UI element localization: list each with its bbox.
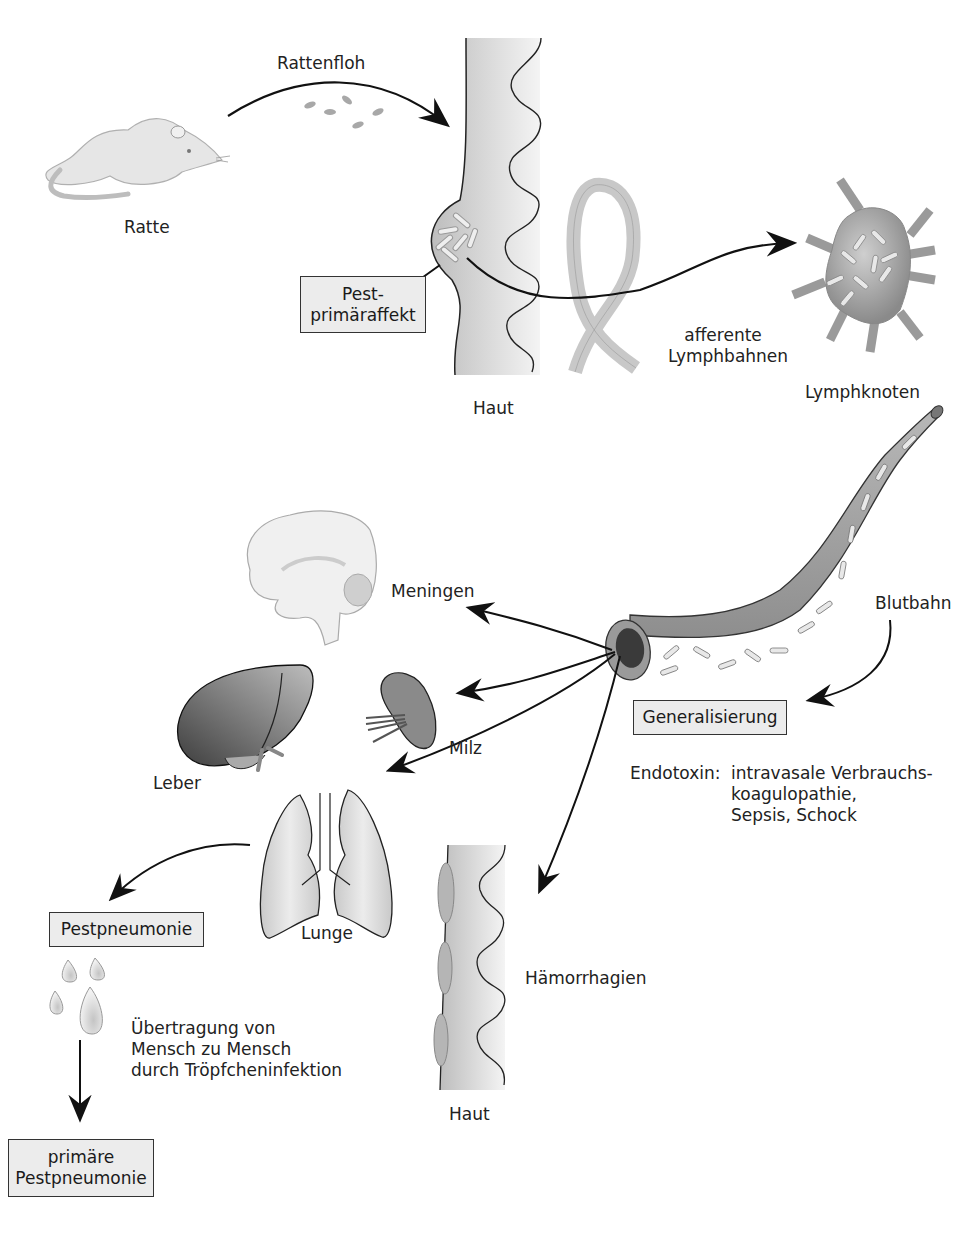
rat-icon — [46, 119, 230, 198]
label-lung: Lunge — [301, 923, 353, 944]
transmission-line2: Mensch zu Mensch — [131, 1039, 342, 1060]
label-lymph-vessels: afferente Lymphbahnen — [668, 325, 778, 367]
endotoxin-line3: Sepsis, Schock — [731, 805, 933, 826]
label-lymph-vessels-line1: afferente — [668, 325, 778, 346]
liver-icon — [178, 665, 313, 770]
label-hemorrhages: Hämorrhagien — [525, 968, 646, 989]
primary-affect-line1: Pest- — [342, 284, 384, 305]
blood-vessel-icon — [601, 403, 945, 683]
box-generalization: Generalisierung — [633, 700, 787, 735]
label-lymph-vessels-line2: Lymphbahnen — [668, 346, 778, 367]
primary-affect-line2: primäraffekt — [310, 305, 416, 326]
label-meninges: Meningen — [391, 581, 474, 602]
endotoxin-line2: koagulopathie, — [731, 784, 933, 805]
primary-pneumonia-line2: Pestpneumonie — [15, 1168, 146, 1189]
lymph-vessel-icon — [573, 185, 636, 372]
lymph-node-icon — [793, 180, 935, 352]
brain-icon — [247, 511, 376, 645]
primary-pneumonia-line1: primäre — [48, 1147, 115, 1168]
box-plague-pneumonia: Pestpneumonie — [49, 912, 204, 947]
box-primary-affect: Pest- primäraffekt — [300, 276, 426, 333]
pneumonia-arrow — [112, 844, 250, 898]
label-skin-bottom: Haut — [449, 1104, 490, 1125]
label-flea: Rattenfloh — [277, 53, 365, 74]
spleen-icon — [366, 673, 436, 749]
transmission-line3: durch Tröpfcheninfektion — [131, 1060, 342, 1081]
label-skin-top: Haut — [473, 398, 514, 419]
box-primary-pneumonia: primäre Pestpneumonie — [8, 1139, 154, 1197]
flea-icon — [303, 94, 384, 130]
endotoxin-line1: intravasale Verbrauchs- — [731, 763, 933, 784]
skin-hemorrhage-icon — [434, 845, 505, 1090]
flea-transfer-arrow — [228, 82, 446, 124]
generalization-arrow — [810, 620, 890, 700]
lung-icon — [260, 790, 392, 938]
label-spleen: Milz — [449, 738, 482, 759]
droplet-icon — [50, 958, 105, 1034]
label-lymph-node: Lymphknoten — [805, 382, 920, 403]
label-endotoxin-key: Endotoxin: — [630, 763, 721, 784]
label-endotoxin-effects: intravasale Verbrauchs- koagulopathie, S… — [731, 763, 933, 826]
label-liver: Leber — [153, 773, 201, 794]
label-transmission: Übertragung von Mensch zu Mensch durch T… — [131, 1018, 342, 1081]
transmission-line1: Übertragung von — [131, 1018, 342, 1039]
label-bloodstream: Blutbahn — [875, 593, 952, 614]
label-rat: Ratte — [124, 217, 170, 238]
